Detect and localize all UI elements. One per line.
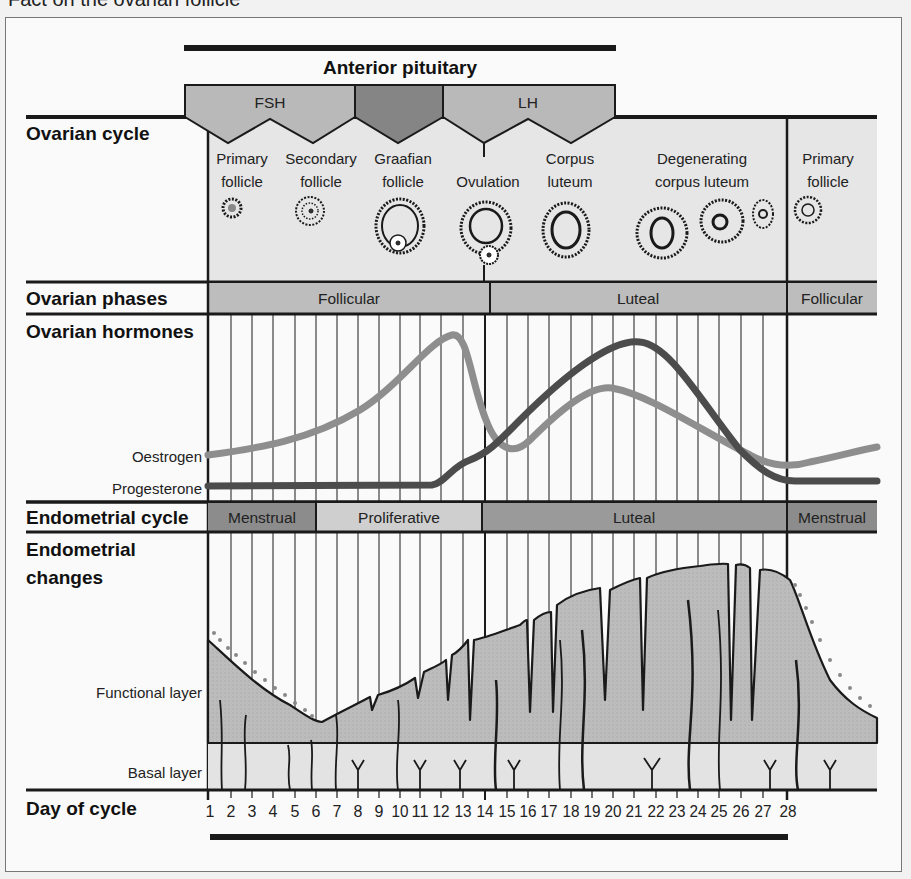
oestrogen-label: Oestrogen xyxy=(132,448,202,465)
stage-graafian-2: follicle xyxy=(382,173,424,190)
phase-luteal-label: Luteal xyxy=(617,290,659,307)
row-label-endometrial-cycle: Endometrial cycle xyxy=(26,507,189,528)
ovarian-cycle-bg xyxy=(208,117,877,282)
lh-label: LH xyxy=(518,94,538,111)
day-label: 19 xyxy=(584,803,601,820)
stage-degenerating-1: Degenerating xyxy=(657,150,747,167)
row-label-endometrial-changes-1: Endometrial xyxy=(26,539,136,560)
stage-secondary-2: follicle xyxy=(300,173,342,190)
day-label: 6 xyxy=(312,803,321,820)
day-label: 16 xyxy=(520,803,537,820)
bottom-bar xyxy=(210,834,788,840)
day-label: 3 xyxy=(248,803,257,820)
stage-degenerating-2: corpus luteum xyxy=(655,173,749,190)
phase-follicular-next-label: Follicular xyxy=(801,290,863,307)
endo-proliferative-label: Proliferative xyxy=(358,509,440,526)
row-label-day-of-cycle: Day of cycle xyxy=(26,798,137,819)
day-label: 8 xyxy=(354,803,363,820)
stage-corpus-luteum-1: Corpus xyxy=(546,150,594,167)
day-label: 12 xyxy=(433,803,450,820)
stage-primary-2: follicle xyxy=(221,173,263,190)
day-label: 15 xyxy=(499,803,516,820)
stage-graafian-1: Graafian xyxy=(374,150,432,167)
endo-menstrual-label: Menstrual xyxy=(228,509,296,526)
day-label: 7 xyxy=(333,803,342,820)
day-label: 22 xyxy=(648,803,665,820)
day-label: 25 xyxy=(711,803,728,820)
stage-ovulation: Ovulation xyxy=(456,173,519,190)
day-label: 18 xyxy=(563,803,580,820)
functional-layer-label: Functional layer xyxy=(96,684,202,701)
pituitary-title: Anterior pituitary xyxy=(323,57,478,78)
functional-layer xyxy=(208,564,877,743)
day-label: 5 xyxy=(291,803,300,820)
row-label-ovarian-phases: Ovarian phases xyxy=(26,288,168,309)
day-label: 10 xyxy=(392,803,409,820)
day-label: 28 xyxy=(780,803,797,820)
day-label: 21 xyxy=(626,803,643,820)
day-label: 1 xyxy=(206,803,215,820)
day-label: 24 xyxy=(690,803,707,820)
day-label: 17 xyxy=(541,803,558,820)
stage-primary-next-2: follicle xyxy=(807,173,849,190)
day-label: 27 xyxy=(755,803,772,820)
day-label: 13 xyxy=(455,803,472,820)
basal-layer-label: Basal layer xyxy=(128,764,202,781)
stage-secondary-1: Secondary xyxy=(285,150,357,167)
stage-corpus-luteum-2: luteum xyxy=(547,173,592,190)
day-numbers: 1 2 3 4 5 6 7 8 9 10 11 12 13 14 15 16 1… xyxy=(206,803,797,820)
progesterone-label: Progesterone xyxy=(112,480,202,497)
day-label: 2 xyxy=(227,803,236,820)
day-label: 9 xyxy=(375,803,384,820)
row-label-endometrial-changes-2: changes xyxy=(26,567,103,588)
top-bar xyxy=(184,45,616,51)
menstrual-cycle-diagram: Anterior pituitary FSH LH Ovarian cycle … xyxy=(0,0,911,879)
day-label: 23 xyxy=(669,803,686,820)
day-label: 14 xyxy=(477,803,494,820)
day-label: 11 xyxy=(412,803,429,820)
phase-follicular-label: Follicular xyxy=(318,290,380,307)
row-label-ovarian-hormones: Ovarian hormones xyxy=(26,321,194,342)
fsh-label: FSH xyxy=(255,94,286,111)
stage-primary-1: Primary xyxy=(216,150,268,167)
endo-menstrual-next-label: Menstrual xyxy=(798,509,866,526)
day-label: 26 xyxy=(733,803,750,820)
stage-primary-next-1: Primary xyxy=(802,150,854,167)
endo-luteal-label: Luteal xyxy=(613,509,655,526)
day-label: 4 xyxy=(269,803,278,820)
day-label: 20 xyxy=(605,803,622,820)
row-label-ovarian-cycle: Ovarian cycle xyxy=(26,123,150,144)
basal-layer xyxy=(208,743,877,790)
